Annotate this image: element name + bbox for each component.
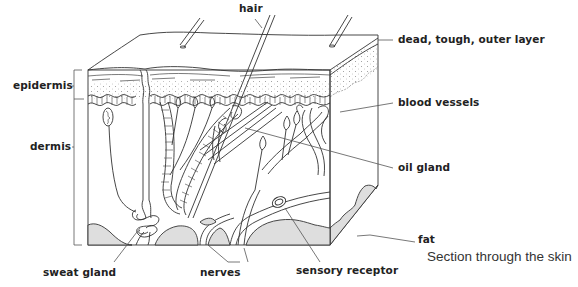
label-sensory-receptor: sensory receptor bbox=[296, 264, 398, 276]
label-dermis: dermis bbox=[30, 140, 71, 152]
sensory-receptor bbox=[271, 195, 288, 210]
label-oil-gland: oil gland bbox=[398, 161, 450, 173]
label-outer-layer: dead, tough, outer layer bbox=[398, 33, 545, 45]
figure-caption: Section through the skin bbox=[427, 249, 572, 264]
label-fat: fat bbox=[418, 233, 435, 245]
hair-follicle bbox=[160, 15, 282, 218]
blood-vessels bbox=[170, 97, 328, 190]
surface-hairs bbox=[180, 15, 352, 48]
layer-bracket bbox=[72, 70, 84, 245]
label-epidermis: epidermis bbox=[13, 79, 73, 91]
right-side-face bbox=[330, 35, 378, 245]
label-sweat-gland: sweat gland bbox=[43, 266, 116, 278]
label-blood-vessels: blood vessels bbox=[398, 96, 479, 108]
label-hair: hair bbox=[239, 2, 263, 14]
fat-layer bbox=[88, 218, 330, 245]
label-nerves: nerves bbox=[200, 266, 241, 278]
